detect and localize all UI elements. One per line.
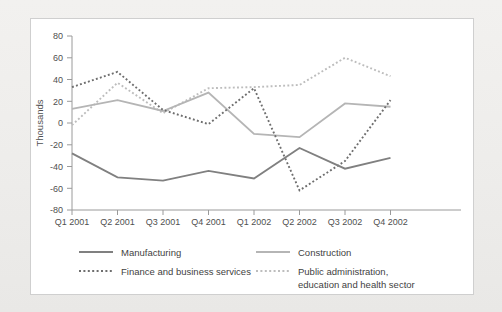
line-chart: 80 60 40 20 0 -20 -40 -60 -80 (31, 19, 475, 296)
x-tick-label: Q4 2001 (191, 217, 226, 227)
y-tick-label: 80 (53, 31, 63, 41)
y-tick-group: 80 60 40 20 0 -20 -40 -60 -80 (50, 31, 72, 215)
series-line-public-administration (72, 58, 391, 125)
chart-legend: Manufacturing Construction Finance and b… (79, 247, 415, 290)
y-tick-label: -60 (50, 184, 63, 194)
series-line-construction (72, 93, 391, 138)
legend-label-manufacturing[interactable]: Manufacturing (121, 247, 181, 258)
x-tick-label: Q1 2002 (237, 217, 272, 227)
legend-label-construction[interactable]: Construction (298, 247, 351, 258)
x-tick-label: Q3 2002 (328, 217, 363, 227)
y-tick-label: 60 (53, 53, 63, 63)
series-line-finance (72, 72, 391, 191)
chart-card: 80 60 40 20 0 -20 -40 -60 -80 (30, 18, 474, 295)
y-tick-label: 0 (58, 118, 63, 128)
y-tick-label: -80 (50, 205, 63, 215)
x-tick-group: Q1 2001 Q2 2001 Q3 2001 Q4 2001 Q1 2002 … (55, 210, 408, 227)
y-tick-label: 20 (53, 97, 63, 107)
x-tick-label: Q2 2001 (100, 217, 135, 227)
x-tick-label: Q1 2001 (55, 217, 90, 227)
y-axis-title: Thousands (34, 99, 45, 146)
series-group (72, 58, 391, 191)
legend-label-public-administration-line2: education and health sector (298, 279, 415, 290)
x-tick-label: Q3 2001 (146, 217, 181, 227)
x-tick-label: Q4 2002 (373, 217, 408, 227)
page-background: 80 60 40 20 0 -20 -40 -60 -80 (0, 0, 502, 312)
series-line-manufacturing (72, 148, 391, 181)
y-tick-label: 40 (53, 75, 63, 85)
legend-label-public-administration[interactable]: Public administration, (298, 266, 388, 277)
y-tick-label: -40 (50, 162, 63, 172)
x-tick-label: Q2 2002 (282, 217, 317, 227)
y-tick-label: -20 (50, 140, 63, 150)
legend-label-finance[interactable]: Finance and business services (121, 266, 251, 277)
